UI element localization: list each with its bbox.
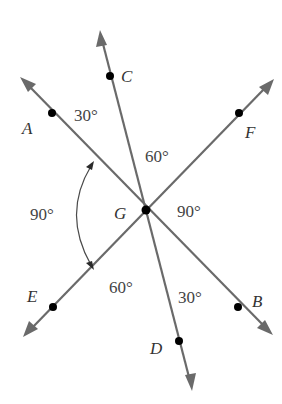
point-f	[235, 109, 243, 117]
label-e: E	[26, 287, 38, 306]
point-g	[142, 206, 151, 215]
label-d: D	[149, 339, 163, 358]
arrowhead-c-icon	[96, 30, 107, 47]
point-d	[175, 337, 183, 345]
label-f: F	[244, 123, 256, 142]
point-a	[48, 109, 56, 117]
angle-label-cgf: 60°	[145, 147, 169, 166]
label-b: B	[252, 292, 263, 311]
point-b	[234, 303, 242, 311]
angle-label-dge: 60°	[109, 278, 133, 297]
angle-label-bgd: 30°	[178, 288, 202, 307]
point-e	[49, 303, 57, 311]
angle-label-ega: 90°	[30, 205, 54, 224]
angle-label-fgb: 90°	[177, 202, 201, 221]
geometry-diagram: A B C D E F G 30° 60° 90° 30° 60° 90°	[0, 0, 282, 404]
angle-label-agc: 30°	[74, 106, 98, 125]
label-a: A	[21, 119, 33, 138]
angle-arc-aGe	[77, 161, 95, 270]
arrowhead-d-icon	[185, 373, 196, 391]
label-g: G	[114, 204, 126, 223]
point-c	[106, 72, 114, 80]
label-c: C	[121, 67, 133, 86]
arc-arrowhead-top-icon	[86, 161, 94, 170]
